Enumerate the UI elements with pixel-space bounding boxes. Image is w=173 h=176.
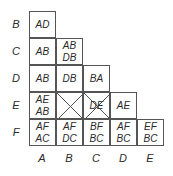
- cell-e-d: AE: [110, 92, 137, 119]
- cell-f-a: AF AC: [29, 119, 56, 146]
- cell-text: AE: [36, 94, 49, 106]
- cell-text: BC: [117, 133, 131, 145]
- row-label-e: E: [6, 99, 26, 111]
- cell-e-c: DE: [83, 92, 110, 119]
- cell-text: AC: [36, 133, 50, 145]
- cell-d-a: AB: [29, 65, 56, 92]
- cell-d-c: BA: [83, 65, 110, 92]
- cell-text: DB: [63, 52, 77, 64]
- cell-text: AF: [36, 121, 49, 133]
- cell-d-b: DB: [56, 65, 83, 92]
- col-label-a: A: [32, 152, 52, 164]
- row-label-f: F: [6, 126, 26, 138]
- cell-text: DC: [62, 133, 76, 145]
- cell-text: AB: [36, 106, 49, 118]
- cell-text: AB: [63, 40, 76, 52]
- cell-text: AF: [117, 121, 130, 133]
- cell-f-d: AF BC: [110, 119, 137, 146]
- cell-text: BC: [144, 133, 158, 145]
- row-label-d: D: [6, 72, 26, 84]
- row-label-c: C: [6, 45, 26, 57]
- col-label-e: E: [140, 152, 160, 164]
- cell-text: DB: [63, 73, 77, 85]
- cell-text: BC: [90, 133, 104, 145]
- cell-f-c: BF BC: [83, 119, 110, 146]
- cell-c-a: AB: [29, 38, 56, 65]
- cell-e-a: AE AB: [29, 92, 56, 119]
- row-label-b: B: [6, 18, 26, 30]
- cell-c-b: AB DB: [56, 38, 83, 65]
- cell-text: AE: [117, 100, 130, 112]
- cell-f-b: AF DC: [56, 119, 83, 146]
- cell-text: AD: [36, 19, 50, 31]
- col-label-c: C: [86, 152, 106, 164]
- cell-text: AB: [36, 46, 49, 58]
- cell-b-a: AD: [29, 11, 56, 38]
- cell-text: AB: [36, 73, 49, 85]
- cell-text: BA: [90, 73, 103, 85]
- cell-text: DE: [90, 100, 104, 112]
- cell-text: AF: [63, 121, 76, 133]
- cell-e-b: [56, 92, 83, 119]
- cell-text: EF: [144, 121, 157, 133]
- cross-out-icon: [57, 93, 84, 120]
- col-label-b: B: [59, 152, 79, 164]
- cell-text: BF: [90, 121, 103, 133]
- col-label-d: D: [113, 152, 133, 164]
- cell-f-e: EF BC: [137, 119, 164, 146]
